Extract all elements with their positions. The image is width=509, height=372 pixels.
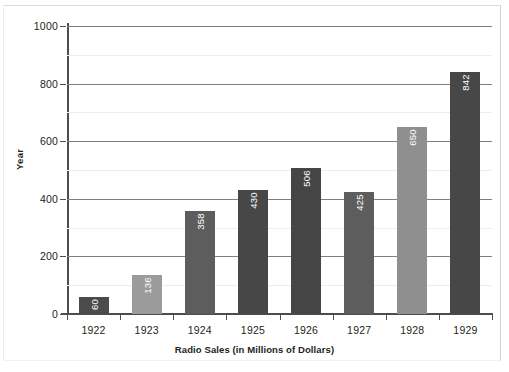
x-axis-tick-label: 1925 <box>241 324 265 336</box>
y-axis-tick-label: 0 <box>52 308 58 320</box>
y-axis-tick-label: 400 <box>40 193 58 205</box>
bar: 842 <box>450 72 480 314</box>
x-axis-tick-mark <box>386 314 387 320</box>
bar: 506 <box>291 168 321 314</box>
bar: 430 <box>238 190 268 314</box>
plot-area: 02004006008001000 6019221361923358192443… <box>67 26 492 314</box>
x-axis-tick-label: 1923 <box>135 324 159 336</box>
bar-group: 5061926 <box>280 26 333 314</box>
x-axis-tick-mark <box>280 314 281 320</box>
bar: 358 <box>185 211 215 314</box>
x-axis-tick-mark <box>173 314 174 320</box>
x-axis-tick-mark <box>492 314 493 320</box>
y-axis-tick-label: 200 <box>40 250 58 262</box>
y-axis-tick-label: 1000 <box>34 20 58 32</box>
x-axis-tick-mark <box>120 314 121 320</box>
bar-value-label: 842 <box>460 74 471 90</box>
x-axis-tick-label: 1926 <box>294 324 318 336</box>
y-axis-tick-label: 600 <box>40 135 58 147</box>
x-axis-tick-mark <box>439 314 440 320</box>
bar-group: 3581924 <box>173 26 226 314</box>
bar: 650 <box>397 127 427 314</box>
y-axis-tick-mark <box>60 256 66 257</box>
bar-value-label: 430 <box>247 192 258 208</box>
bar: 60 <box>79 297 109 314</box>
x-axis-tick-label: 1924 <box>188 324 212 336</box>
bar-group: 4301925 <box>226 26 279 314</box>
bar: 425 <box>344 192 374 314</box>
chart-figure: Year 02004006008001000 60192213619233581… <box>0 0 509 372</box>
bar-group: 1361923 <box>120 26 173 314</box>
x-axis-tick-mark <box>226 314 227 320</box>
y-axis-tick-mark <box>60 84 66 85</box>
x-axis-tick-label: 1927 <box>347 324 371 336</box>
bar-value-label: 506 <box>301 171 312 187</box>
bar-value-label: 136 <box>141 277 152 293</box>
bar-value-label: 650 <box>407 129 418 145</box>
x-axis-tick-mark <box>333 314 334 320</box>
y-axis-tick-mark <box>60 199 66 200</box>
x-axis-tick-label: 1928 <box>400 324 424 336</box>
x-axis-title: Radio Sales (in Millions of Dollars) <box>0 344 509 355</box>
bar-value-label: 425 <box>354 194 365 210</box>
bar-group: 4251927 <box>333 26 386 314</box>
y-axis-title: Year <box>14 149 25 170</box>
x-axis-tick-label: 1922 <box>81 324 105 336</box>
bar-series: 6019221361923358192443019255061926425192… <box>67 26 492 314</box>
x-axis-tick-mark <box>67 314 68 320</box>
y-axis-tick-mark <box>60 26 66 27</box>
bar-group: 8421929 <box>439 26 492 314</box>
bar-value-label: 358 <box>194 213 205 229</box>
bar-group: 6501928 <box>386 26 439 314</box>
y-axis-tick-mark <box>60 141 66 142</box>
bar-value-label: 60 <box>88 299 99 310</box>
bar: 136 <box>132 275 162 314</box>
y-axis-tick-mark <box>60 314 66 315</box>
x-axis-tick-label: 1929 <box>453 324 477 336</box>
y-axis-tick-label: 800 <box>40 78 58 90</box>
bar-group: 601922 <box>67 26 120 314</box>
